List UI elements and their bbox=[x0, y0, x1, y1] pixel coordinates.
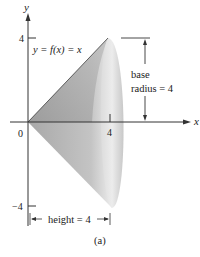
base-radius-annotation: base radius = 4 bbox=[121, 38, 174, 121]
radius-label: radius = 4 bbox=[131, 83, 174, 94]
curve-label: y = f(x) = x bbox=[32, 44, 82, 56]
figure-caption: (a) bbox=[94, 235, 106, 247]
height-annotation: height = 4 bbox=[30, 213, 110, 225]
cone-solid bbox=[28, 38, 124, 208]
height-label: height = 4 bbox=[48, 214, 91, 225]
arrow-up-icon bbox=[143, 39, 147, 45]
y-tick-label-neg4: −4 bbox=[12, 201, 23, 212]
arrow-left-icon bbox=[31, 217, 36, 221]
x-tick-label-4: 4 bbox=[107, 127, 112, 138]
y-axis-arrow-icon bbox=[26, 13, 31, 21]
arrow-down-icon bbox=[143, 115, 147, 121]
cone-diagram: y x 0 4 −4 4 y = f(x) = x base radius = … bbox=[0, 0, 200, 257]
origin-label: 0 bbox=[18, 128, 23, 139]
y-axis-label: y bbox=[23, 1, 29, 13]
x-axis-arrow-icon bbox=[183, 120, 191, 125]
base-label: base bbox=[131, 69, 150, 80]
y-tick-label-4: 4 bbox=[19, 33, 24, 44]
arrow-right-icon bbox=[104, 217, 109, 221]
x-axis-label: x bbox=[193, 115, 199, 127]
